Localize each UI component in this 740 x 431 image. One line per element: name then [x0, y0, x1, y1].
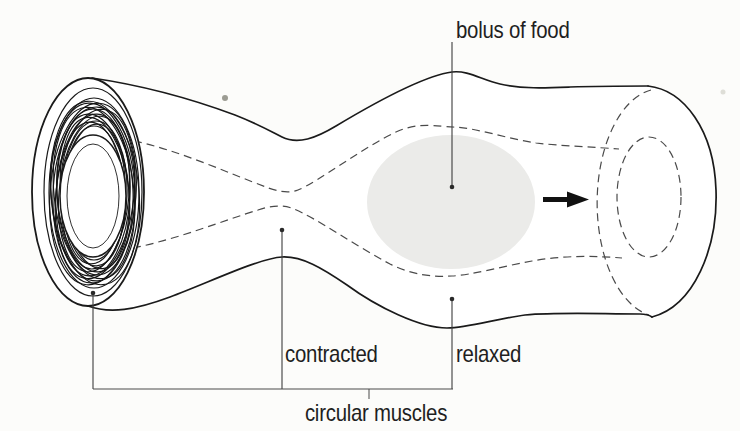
contracted-leader-dot — [280, 228, 285, 233]
bolus-of-food-label: bolus of food — [456, 18, 570, 42]
bolus-shape — [367, 135, 535, 269]
relaxed-label: relaxed — [456, 342, 521, 366]
paper-speck — [222, 95, 228, 101]
circular-muscles-bracket — [93, 389, 453, 399]
paper-speck-faint — [721, 90, 726, 95]
relaxed-leader-dot — [450, 297, 455, 302]
lumen-opening — [60, 135, 126, 257]
contracted-label: contracted — [285, 342, 378, 366]
left-end-cross-section — [32, 78, 147, 306]
muscle-ring-leader-dot — [91, 291, 96, 296]
circular-muscles-label: circular muscles — [305, 401, 447, 425]
peristalsis-figure: bolus of food contracted relaxed circula… — [0, 0, 740, 431]
bolus-leader-dot — [450, 185, 455, 190]
